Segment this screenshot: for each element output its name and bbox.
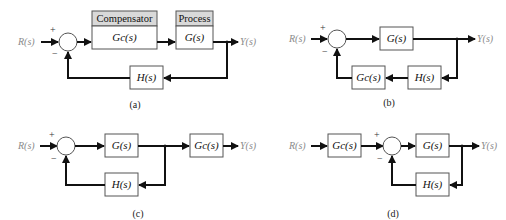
summing-junction (59, 33, 77, 51)
forward-tf-label: G(s) (387, 32, 407, 45)
compensator-header-label: Compensator (97, 13, 153, 24)
diagram-d: R(s) Gc(s) + − G(s) Y(s) H(s) (d) (288, 129, 498, 220)
diagram-a: R(s) + − Compensator Gc(s) Process G(s) … (17, 11, 257, 111)
feedback-path-out (337, 49, 352, 78)
output-signal-label: Y(s) (477, 33, 494, 45)
process-tf-label: G(s) (185, 31, 205, 44)
caption: (a) (129, 99, 140, 111)
compensator-tf-label: Gc(s) (112, 31, 137, 44)
caption: (c) (132, 208, 143, 220)
input-compensator-tf-label: Gc(s) (332, 139, 357, 152)
plus-sign: + (49, 129, 55, 140)
minus-sign: − (51, 153, 57, 164)
feedback-path-out (68, 52, 130, 78)
input-signal-label: R(s) (288, 33, 306, 45)
feedback-tf-label: H(s) (422, 178, 443, 191)
output-signal-label: Y(s) (481, 140, 498, 152)
feedback-path-in (442, 39, 457, 78)
plus-sign: + (374, 129, 380, 140)
output-signal-label: Y(s) (240, 36, 257, 48)
process-header-label: Process (178, 13, 210, 24)
plus-sign: + (50, 24, 56, 35)
feedback-path-in (450, 146, 462, 185)
output-signal-label: Y(s) (240, 140, 257, 152)
feedback-path-out (392, 156, 416, 185)
minus-sign: − (377, 153, 383, 164)
minus-sign: − (322, 46, 328, 57)
summing-junction (57, 137, 75, 155)
feedback-path-in (139, 146, 165, 185)
plus-sign: + (320, 22, 326, 33)
forward-tf-label: G(s) (423, 139, 443, 152)
caption: (d) (387, 208, 399, 220)
caption: (b) (383, 97, 395, 109)
block-diagrams-canvas: R(s) + − Compensator Gc(s) Process G(s) … (0, 0, 506, 220)
input-signal-label: R(s) (17, 140, 35, 152)
output-compensator-tf-label: Gc(s) (194, 139, 219, 152)
feedback-compensator-tf-label: Gc(s) (356, 71, 381, 84)
diagram-b: R(s) + − G(s) Y(s) H(s) Gc(s) (b) (288, 22, 494, 109)
summing-junction (383, 137, 401, 155)
input-signal-label: R(s) (17, 36, 35, 48)
summing-junction (328, 30, 346, 48)
input-signal-label: R(s) (288, 140, 306, 152)
minus-sign: − (52, 48, 58, 59)
diagram-c: R(s) + − G(s) Gc(s) Y(s) H(s) (c) (17, 129, 257, 220)
feedback-tf-label: H(s) (111, 178, 132, 191)
feedback-path-out (66, 156, 105, 185)
feedback-tf-label: H(s) (136, 71, 157, 84)
feedback-tf-label: H(s) (414, 71, 435, 84)
forward-tf-label: G(s) (112, 139, 132, 152)
